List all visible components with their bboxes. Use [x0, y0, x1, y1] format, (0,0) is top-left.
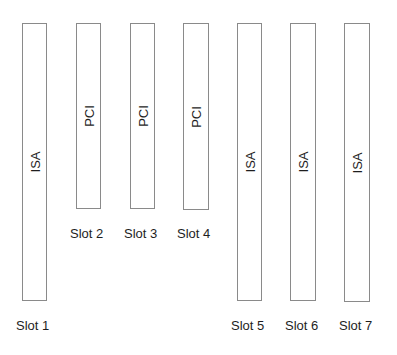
slot-4-label: Slot 4 [177, 226, 210, 241]
slot-4-box: PCI [183, 23, 209, 210]
slot-7-label: Slot 7 [339, 318, 372, 333]
slot-5-label: Slot 5 [231, 318, 264, 333]
slot-3-box: PCI [130, 23, 155, 209]
slot-2-label: Slot 2 [70, 226, 103, 241]
slot-7-box: ISA [344, 23, 370, 302]
slot-1-label: Slot 1 [16, 318, 49, 333]
bus-type-label: PCI [81, 105, 96, 127]
slot-2-box: PCI [76, 23, 101, 209]
slot-5-box: ISA [237, 23, 262, 301]
bus-type-label: ISA [242, 152, 257, 173]
bus-type-label: ISA [296, 152, 311, 173]
slot-1-box: ISA [22, 23, 47, 301]
bus-type-label: ISA [27, 152, 42, 173]
bus-type-label: PCI [189, 106, 204, 128]
slot-6-box: ISA [290, 23, 316, 301]
slot-6-label: Slot 6 [285, 318, 318, 333]
bus-type-label: ISA [350, 152, 365, 173]
bus-type-label: PCI [135, 105, 150, 127]
slot-3-label: Slot 3 [124, 226, 157, 241]
